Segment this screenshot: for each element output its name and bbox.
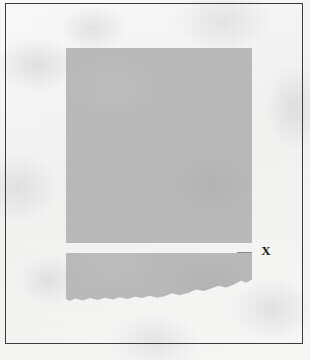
- annotation-label-x: X: [259, 243, 273, 259]
- edge-tick-rule: [237, 252, 252, 253]
- upper-gray-panel: [66, 48, 252, 243]
- scanned-page: X: [0, 0, 310, 360]
